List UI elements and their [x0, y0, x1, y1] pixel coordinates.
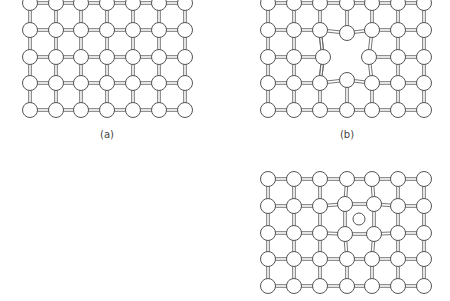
atom	[261, 252, 276, 267]
atom	[367, 197, 382, 212]
atom	[391, 50, 406, 65]
atom	[365, 76, 380, 91]
atom	[152, 23, 167, 38]
atom	[261, 23, 276, 38]
atom	[313, 76, 328, 91]
atom	[417, 279, 432, 294]
atom	[49, 103, 64, 118]
atom	[100, 76, 115, 91]
atom	[178, 103, 193, 118]
atom	[313, 172, 328, 187]
atom	[287, 76, 302, 91]
atom	[152, 103, 167, 118]
atom	[126, 50, 141, 65]
atom	[340, 103, 355, 118]
atom	[126, 0, 141, 11]
atom	[365, 103, 380, 118]
atom	[100, 103, 115, 118]
atom	[126, 103, 141, 118]
atom	[417, 226, 432, 241]
atom	[23, 50, 38, 65]
atom	[178, 76, 193, 91]
atom	[152, 0, 167, 11]
atom	[313, 199, 328, 214]
atom	[49, 76, 64, 91]
atom	[391, 103, 406, 118]
atom	[391, 172, 406, 187]
atom	[365, 279, 380, 294]
atom	[100, 23, 115, 38]
atom	[391, 279, 406, 294]
atom	[391, 23, 406, 38]
atom	[178, 0, 193, 11]
atom	[287, 50, 302, 65]
panel-label-a: (a)	[100, 129, 114, 140]
atom	[261, 76, 276, 91]
atom	[391, 76, 406, 91]
atom	[417, 23, 432, 38]
atom	[74, 23, 89, 38]
atom	[338, 197, 353, 212]
atom	[74, 103, 89, 118]
atom	[261, 226, 276, 241]
atom	[391, 226, 406, 241]
atom	[367, 227, 382, 242]
atom	[340, 26, 355, 41]
atom	[417, 252, 432, 267]
atom	[287, 172, 302, 187]
atom	[23, 103, 38, 118]
atom	[391, 199, 406, 214]
atom	[362, 50, 377, 65]
atom	[261, 0, 276, 11]
atom	[340, 172, 355, 187]
atom	[23, 23, 38, 38]
atom	[313, 226, 328, 241]
atom	[261, 50, 276, 65]
atom	[74, 76, 89, 91]
atom	[261, 103, 276, 118]
atom	[287, 103, 302, 118]
lattice-panel-c	[261, 172, 432, 294]
atom	[74, 50, 89, 65]
atom	[417, 0, 432, 11]
atom	[261, 199, 276, 214]
atom	[74, 0, 89, 11]
atom	[49, 23, 64, 38]
atom	[152, 76, 167, 91]
atom	[417, 199, 432, 214]
atom	[340, 279, 355, 294]
atom	[340, 73, 355, 88]
atom	[23, 76, 38, 91]
atom	[126, 23, 141, 38]
atom	[287, 23, 302, 38]
atom	[313, 252, 328, 267]
atom	[340, 0, 355, 11]
atom	[391, 252, 406, 267]
atom	[391, 0, 406, 11]
atom	[313, 103, 328, 118]
atom	[49, 0, 64, 11]
atom	[100, 0, 115, 11]
atom	[287, 0, 302, 11]
atom	[338, 227, 353, 242]
lattice-diagram	[0, 0, 450, 301]
atom	[287, 252, 302, 267]
atom	[313, 279, 328, 294]
atom	[417, 172, 432, 187]
lattice-panel-a	[23, 0, 193, 118]
atom	[261, 279, 276, 294]
panel-label-b: (b)	[340, 129, 354, 140]
atom	[178, 23, 193, 38]
atom	[152, 50, 167, 65]
atom	[313, 23, 328, 38]
atom	[316, 50, 331, 65]
atom	[100, 50, 115, 65]
atom	[287, 226, 302, 241]
atom	[365, 172, 380, 187]
atom	[365, 252, 380, 267]
lattice-panel-b	[261, 0, 432, 118]
atom	[287, 279, 302, 294]
atom	[417, 76, 432, 91]
atom	[353, 213, 365, 225]
atom	[287, 199, 302, 214]
